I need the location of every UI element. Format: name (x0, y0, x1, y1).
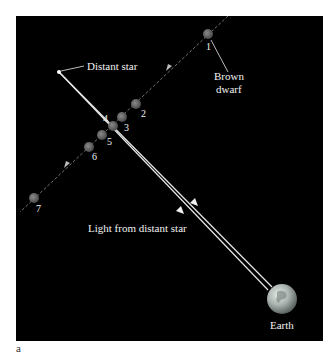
svg-text:7: 7 (36, 203, 41, 214)
svg-text:6: 6 (92, 151, 97, 162)
figure-caption-letter: a (16, 342, 21, 354)
earth-label: Earth (270, 319, 294, 331)
light-label: Light from distant star (88, 222, 187, 234)
svg-text:1: 1 (206, 41, 211, 52)
svg-text:5: 5 (107, 136, 112, 147)
svg-text:3: 3 (124, 122, 129, 133)
svg-text:2: 2 (141, 108, 146, 119)
brown-dwarf-label-2: dwarf (216, 83, 242, 95)
svg-text:4: 4 (103, 113, 108, 124)
distant-star (57, 70, 61, 74)
brown-dwarf-label-1: Brown (214, 70, 244, 82)
microlensing-diagram: Distant star 1 Brown dwarf 2 3 4 5 6 7 L… (0, 0, 334, 357)
distant-star-label: Distant star (87, 60, 138, 72)
